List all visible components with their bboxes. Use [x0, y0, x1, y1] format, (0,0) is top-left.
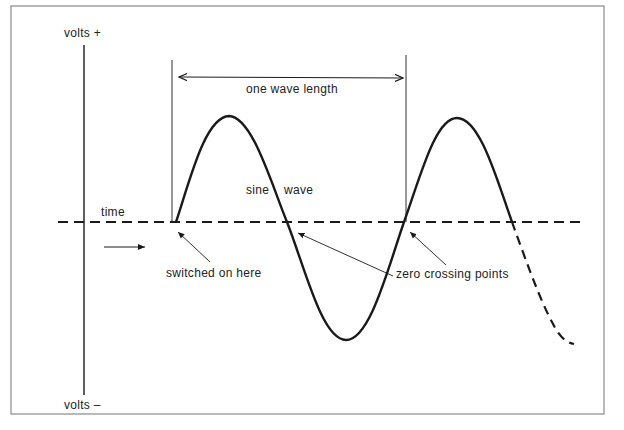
sine-label: sine — [246, 183, 269, 197]
zero-crossing-pointer-2 — [410, 232, 446, 265]
time-label: time — [101, 205, 125, 219]
sine-wave-diagram — [0, 0, 624, 430]
zero-crossing-pointer-1 — [298, 233, 393, 276]
wavelength-arrow — [179, 77, 403, 78]
switched-on-pointer — [178, 232, 210, 262]
sine-wave-solid — [176, 116, 512, 340]
wave-label: wave — [284, 183, 313, 197]
volts-positive-label: volts + — [64, 26, 101, 40]
sine-wave-dashed-continuation — [512, 222, 574, 344]
diagram-frame — [11, 6, 604, 414]
zero-crossing-label: zero crossing points — [396, 267, 509, 281]
volts-negative-label: volts – — [64, 398, 101, 412]
wavelength-label: one wave length — [246, 82, 338, 96]
switched-on-label: switched on here — [166, 266, 262, 280]
